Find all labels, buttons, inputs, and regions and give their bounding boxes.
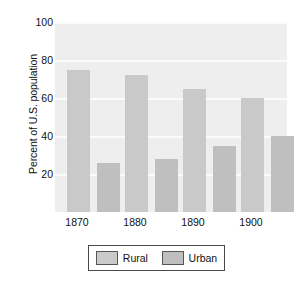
bar-rural-1900 [241, 98, 264, 212]
bar-urban-1890 [213, 146, 236, 213]
bar-rural-1880 [125, 75, 148, 212]
x-tick-label: 1890 [166, 216, 220, 228]
x-axis-tick-labels: 1870 1880 1890 1900 [55, 216, 287, 232]
bar-urban-1880 [155, 159, 178, 212]
y-tick-label: 60 [27, 93, 53, 103]
bar-urban-1900 [271, 136, 294, 212]
legend-entry-rural: Rural [96, 251, 148, 265]
y-tick-label: 80 [27, 55, 53, 65]
plot-area [55, 22, 287, 212]
bar-urban-1870 [97, 163, 120, 212]
y-tick-label: 40 [27, 131, 53, 141]
bar-group-1870 [67, 22, 120, 212]
bar-group-1880 [125, 22, 178, 212]
bar-group-1890 [183, 22, 236, 212]
legend-swatch-icon [162, 251, 184, 265]
chart-legend: Rural Urban [88, 245, 225, 271]
y-tick-label: 20 [27, 169, 53, 179]
legend-label: Rural [123, 252, 148, 264]
x-tick-label: 1900 [224, 216, 278, 228]
bar-chart-figure: Percent of U.S. population 100 80 60 40 … [0, 0, 303, 283]
x-tick-label: 1880 [108, 216, 162, 228]
bar-rural-1890 [183, 89, 206, 213]
legend-swatch-icon [96, 251, 118, 265]
bar-rural-1870 [67, 70, 90, 213]
bar-group-1900 [241, 22, 294, 212]
legend-entry-urban: Urban [162, 251, 218, 265]
y-axis-tick-labels: 100 80 60 40 20 [26, 0, 53, 283]
x-tick-label: 1870 [50, 216, 104, 228]
y-tick-label: 100 [27, 17, 53, 27]
legend-label: Urban [189, 252, 218, 264]
